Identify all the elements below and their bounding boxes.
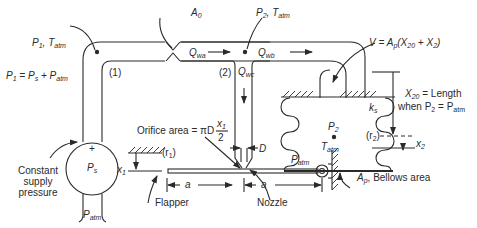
label-when-p2: when P2 = Patm [397,101,465,113]
label-flapper: Flapper [155,197,190,208]
label-node-2: (2) [219,67,231,78]
label-x2: x2 [415,138,425,150]
label-bellows-p2: P2 [328,121,339,133]
label-patm-flapper: Patm [291,154,310,166]
label-r2: (r2) [366,130,380,142]
label-r1: (r1) [162,147,176,159]
node-2-dot [243,50,247,54]
label-a-right: a [261,179,267,190]
flapper [168,148,338,190]
restriction-a0 [165,41,181,62]
label-supply-line-3: pressure [19,187,58,198]
label-p2-tatm: P2, Tatm [256,7,290,19]
label-ps: Ps [87,162,98,174]
label-plus: + [89,143,95,154]
diagram-canvas: P1, Tatm P1 = Ps + Patm (1) (2) A0 P2, T… [0,0,477,228]
label-nozzle: Nozzle [257,197,288,208]
bellows-point-dot [332,135,336,139]
label-bellows-area: Ap, Bellows area [356,172,431,185]
reference-r1-wall [128,147,165,171]
label-orifice-frac-den: 2 [218,132,224,143]
node-1-dot [95,50,99,54]
label-patm-bottom: Patm [83,209,102,221]
label-ks: ks [369,102,378,114]
label-a0: A0 [190,7,202,19]
label-d: D [259,143,266,154]
main-pipe [180,42,365,98]
dimension-d [230,148,258,162]
label-supply-line-2: supply [24,176,53,187]
label-volume: V = Ap(X20 + X2) [369,37,440,50]
label-supply-line-1: Constant [18,165,58,176]
label-orifice-area: Orifice area = πD [137,125,214,136]
label-p1-tatm: P1, Tatm [32,37,66,49]
exhaust-pipe-right [102,194,106,222]
label-bellows-tatm: Tatm [321,141,339,153]
label-orifice-frac-num: x1 [216,118,226,130]
label-node-1: (1) [109,67,121,78]
label-a-left: a [185,179,191,190]
label-qwa: Qwa [189,47,206,59]
label-qwb: Qwb [258,47,275,59]
label-x20: X20 = Length [404,88,461,100]
label-x1: x1 [116,164,126,176]
label-p1-equation: P1 = Ps + Patm [6,70,68,82]
